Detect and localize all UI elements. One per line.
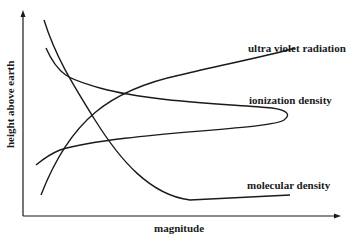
ultra-violet-radiation-curve (41, 48, 295, 195)
x-axis-label: magnitude (154, 222, 204, 234)
molecular-density-label: molecular density (247, 179, 331, 191)
ultra-violet-label: ultra violet radiation (248, 42, 346, 54)
diagram-canvas: ultra violet radiation ionization densit… (0, 0, 360, 241)
y-axis-arrow-icon (21, 10, 26, 17)
y-axis-label: height above earth (4, 61, 16, 148)
ionization-density-label: ionization density (249, 94, 332, 106)
ionization-density-curve (36, 48, 288, 165)
x-axis-arrow-icon (334, 214, 341, 219)
